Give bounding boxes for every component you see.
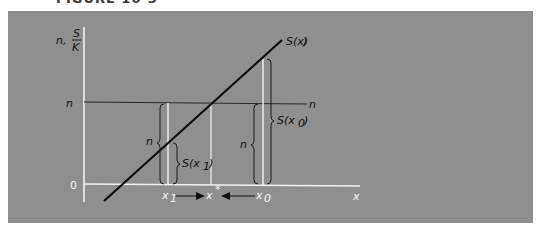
arrowhead-left [221, 192, 230, 200]
x0-marker-label: x 0 [255, 189, 271, 205]
x0-n-brace [251, 104, 258, 184]
svg-text:): ) [208, 157, 213, 170]
y-axis-label-numerator: S [73, 27, 80, 40]
x0-s-brace [267, 59, 274, 184]
svg-text:x: x [205, 189, 213, 202]
origin-label: 0 [70, 179, 77, 192]
arrowhead-right [196, 192, 205, 200]
svg-text:S(x: S(x [182, 157, 200, 170]
x1-s-brace-label: S(x 1 ) [182, 157, 213, 173]
x-axis [84, 184, 360, 186]
svg-text:0: 0 [264, 192, 271, 205]
n-line [84, 102, 307, 104]
x0-n-brace-label: n [240, 138, 247, 151]
svg-text:): ) [303, 114, 308, 127]
x0-s-brace-label: S(x 0 ) [277, 114, 308, 130]
svg-text:1: 1 [170, 192, 177, 205]
x-axis-label: x [352, 190, 360, 203]
svg-text:x: x [161, 189, 169, 202]
sx-curve [104, 40, 282, 201]
x1-s-brace [173, 143, 180, 184]
n-tick-label: n [66, 97, 73, 110]
diagram-canvas: n, S K n n 0 x S(x) ) n S(x 1 ) n S(x 0 … [0, 0, 541, 237]
y-axis-label-denominator: K [72, 41, 80, 54]
x1-n-brace-label: n [146, 135, 153, 148]
xstar-marker-label: x * [205, 183, 221, 202]
sx-curve-label-close: ) [302, 35, 307, 48]
n-line-label: n [309, 98, 316, 111]
svg-text:S(x: S(x [277, 114, 295, 127]
y-axis-label-prefix: n, [56, 34, 66, 47]
x1-marker-label: x 1 [161, 189, 177, 205]
x1-n-brace [157, 104, 164, 184]
svg-text:*: * [215, 183, 221, 196]
svg-text:x: x [255, 189, 263, 202]
